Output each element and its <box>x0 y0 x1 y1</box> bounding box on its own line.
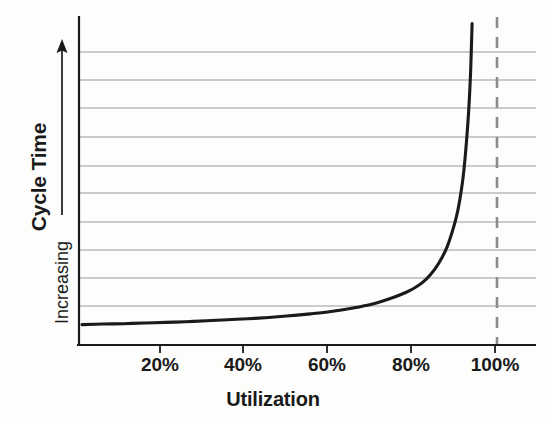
x-tick-label-60: 60% <box>292 354 362 376</box>
x-tick-label-80: 80% <box>376 354 446 376</box>
x-axis-ticks <box>160 345 495 353</box>
cycle-time-curve <box>82 24 472 325</box>
y-axis-subtitle: Increasing <box>52 218 73 348</box>
x-axis-title: Utilization <box>0 388 546 411</box>
y-axis-title: Cycle Time <box>27 97 51 257</box>
cycle-time-utilization-chart: 20% 40% 60% 80% 100% Utilization Cycle T… <box>0 0 546 423</box>
increasing-arrow-icon <box>57 39 68 215</box>
x-tick-label-100: 100% <box>455 354 535 376</box>
x-tick-label-20: 20% <box>125 354 195 376</box>
x-tick-label-40: 40% <box>208 354 278 376</box>
gridlines <box>79 52 536 306</box>
